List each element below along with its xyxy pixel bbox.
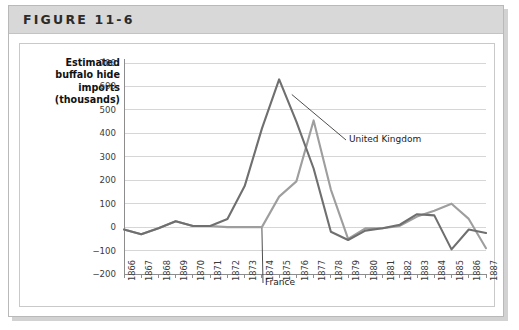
x-axis-tick-label: 1873 xyxy=(248,260,258,281)
x-axis-tick-label: 1877 xyxy=(317,260,327,281)
y-axis-tick-label: 100 xyxy=(86,199,116,209)
x-axis-tick-label: 1870 xyxy=(196,260,206,281)
plot-area: −200−10001002003004005006007001866186718… xyxy=(20,44,496,308)
y-axis-tick-label: 600 xyxy=(86,81,116,91)
figure-page: FIGURE 11-6 Estimated buffalo hide impor… xyxy=(0,0,519,330)
x-axis-tick-label: 1871 xyxy=(213,260,223,281)
y-axis-tick-label: 400 xyxy=(86,128,116,138)
x-axis-tick-label: 1866 xyxy=(127,260,137,281)
chart-card: Estimated buffalo hide imports (thousand… xyxy=(19,43,495,307)
x-axis-tick-label: 1887 xyxy=(489,260,499,281)
x-axis-tick-label: 1884 xyxy=(437,260,447,281)
x-axis-tick-label: 1878 xyxy=(334,260,344,281)
y-axis-tick-label: 500 xyxy=(86,105,116,115)
x-axis-tick-label: 1869 xyxy=(179,260,189,281)
y-axis-tick-label: 0 xyxy=(86,222,116,232)
series-line-france xyxy=(124,120,486,248)
figure-panel: FIGURE 11-6 Estimated buffalo hide impor… xyxy=(8,5,504,317)
y-axis-tick-label: 200 xyxy=(86,175,116,185)
x-axis-tick-label: 1885 xyxy=(455,260,465,281)
x-axis-tick-label: 1886 xyxy=(472,260,482,281)
x-axis-tick-label: 1872 xyxy=(231,260,241,281)
x-axis-tick-label: 1868 xyxy=(162,260,172,281)
series-label-france: France xyxy=(265,277,295,287)
y-axis-tick-label: 300 xyxy=(86,152,116,162)
x-axis-tick-label: 1867 xyxy=(144,260,154,281)
x-axis-tick-label: 1883 xyxy=(420,260,430,281)
x-axis-tick-label: 1882 xyxy=(403,260,413,281)
x-axis-tick-label: 1876 xyxy=(300,260,310,281)
x-axis-tick-label: 1879 xyxy=(351,260,361,281)
x-axis-tick-label: 1881 xyxy=(386,260,396,281)
figure-title: FIGURE 11-6 xyxy=(23,12,135,27)
y-axis-tick-label: 700 xyxy=(86,58,116,68)
y-axis-tick-label: −100 xyxy=(86,246,116,256)
series-line-united-kingdom xyxy=(124,79,486,249)
series-label-united-kingdom: United Kingdom xyxy=(349,134,421,144)
y-axis-tick-label: −200 xyxy=(86,269,116,279)
x-axis-tick-label: 1880 xyxy=(369,260,379,281)
